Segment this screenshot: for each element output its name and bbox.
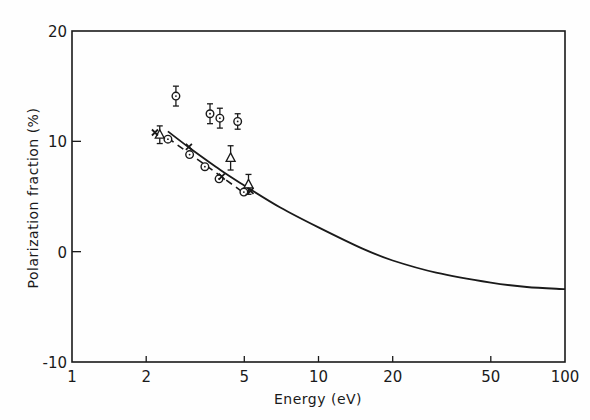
data-points [152, 86, 254, 196]
y-tick-label: 0 [57, 244, 67, 262]
x-tick-label: 50 [481, 368, 500, 386]
cross-marker [152, 130, 158, 136]
y-tick-label: -10 [43, 354, 68, 372]
y-axis-title: Polarization fraction (%) [25, 108, 41, 289]
circle-marker-dot [237, 121, 239, 123]
triangle-marker [244, 179, 253, 188]
x-tick-label: 2 [141, 368, 151, 386]
x-tick-label: 10 [309, 368, 328, 386]
circle-marker-dot [219, 117, 221, 119]
x-axis-title: Energy (eV) [274, 391, 362, 407]
x-tick-label: 20 [383, 368, 402, 386]
x-axis-ticks: 125102050100 [67, 356, 579, 386]
plot-frame [72, 31, 565, 362]
y-tick-label: 20 [48, 23, 67, 41]
curves [168, 131, 565, 289]
circle-marker-dot [167, 138, 169, 140]
circle-marker-dot [175, 95, 177, 97]
triangle-marker [226, 153, 235, 162]
circle-marker-dot [243, 191, 245, 193]
x-tick-label: 1 [67, 368, 77, 386]
circle-marker-dot [189, 154, 191, 156]
polarization-chart: 125102050100 -1001020 Energy (eV) Polari… [0, 0, 590, 420]
y-tick-label: 10 [48, 133, 67, 151]
circle-marker-dot [209, 113, 211, 115]
y-axis-ticks: -1001020 [43, 23, 82, 372]
plot-border [72, 31, 565, 362]
circle-marker-dot [204, 166, 206, 168]
x-tick-label: 5 [240, 368, 250, 386]
theory-curve [168, 131, 565, 289]
x-tick-label: 100 [551, 368, 580, 386]
